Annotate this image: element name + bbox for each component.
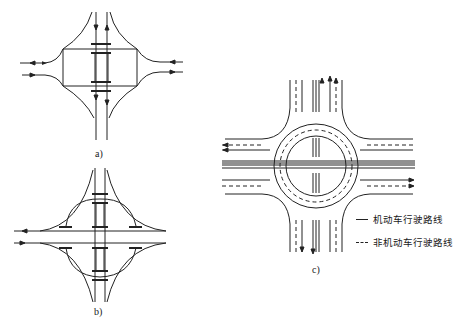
panel-a-label: a) [95, 148, 103, 159]
legend-label-nonmotor: 非机动车行驶路线 [373, 235, 453, 249]
panel-c-label: c) [312, 264, 320, 275]
panel-b-label: b) [94, 306, 102, 317]
solid-line-swatch [356, 219, 368, 220]
legend-label-motor: 机动车行驶路线 [373, 212, 443, 226]
panel-b-diagram [14, 168, 166, 302]
panel-c-diagram [222, 76, 415, 254]
legend-item-nonmotor: 非机动车行驶路线 [356, 235, 453, 249]
panel-a-diagram [20, 12, 183, 140]
dashed-line-swatch [356, 242, 368, 243]
legend-item-motor: 机动车行驶路线 [356, 212, 443, 226]
interchange-diagrams [0, 0, 456, 324]
